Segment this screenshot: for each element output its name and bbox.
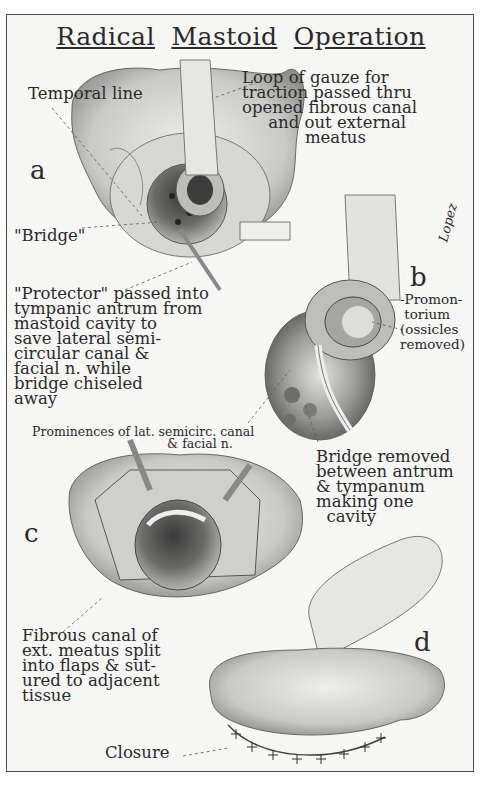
label-promontorium: -Promon- torium (ossicles removed): [400, 292, 465, 352]
label-loop-of-gauze: Loop of gauze for traction passed thru o…: [242, 70, 417, 145]
panel-label-a: a: [30, 155, 46, 185]
label-prominences: Prominences of lat. semicirc. canal & fa…: [32, 426, 254, 450]
panel-c-drawing: [69, 440, 302, 597]
label-protector: "Protector" passed into tympanic antrum …: [14, 286, 209, 406]
label-fibrous-canal: Fibrous canal of ext. meatus split into …: [22, 628, 161, 703]
label-closure: Closure: [105, 745, 170, 760]
label-bridge-removed: Bridge removed between antrum & tympanum…: [316, 449, 454, 524]
panel-label-c: c: [24, 518, 39, 548]
label-temporal-line: Temporal line: [28, 86, 143, 101]
panel-label-b: b: [410, 262, 427, 292]
label-bridge: "Bridge": [14, 228, 85, 243]
panel-label-d: d: [414, 627, 431, 657]
